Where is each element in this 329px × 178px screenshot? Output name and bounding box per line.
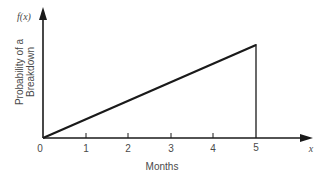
tick-label-2: 2 xyxy=(125,143,131,154)
y-axis-title-line2: Breakdown xyxy=(25,47,36,97)
x-axis-symbol: x xyxy=(308,143,314,154)
y-axis-title-line1: Probability of a xyxy=(14,38,25,105)
y-axis-symbol: f(x) xyxy=(17,11,32,23)
x-axis-arrowhead-icon xyxy=(300,134,313,142)
tick-label-4: 4 xyxy=(210,143,216,154)
tick-label-5: 5 xyxy=(253,142,259,153)
tick-label-0: 0 xyxy=(37,143,43,154)
chart-canvas: 0 1 2 3 4 5 x f(x) Months Probability of… xyxy=(0,0,329,178)
x-axis-title: Months xyxy=(146,161,179,172)
tick-label-1: 1 xyxy=(83,143,89,154)
y-axis-arrowhead-icon xyxy=(39,7,47,20)
series-ramp-line xyxy=(43,45,256,138)
tick-label-3: 3 xyxy=(168,143,174,154)
